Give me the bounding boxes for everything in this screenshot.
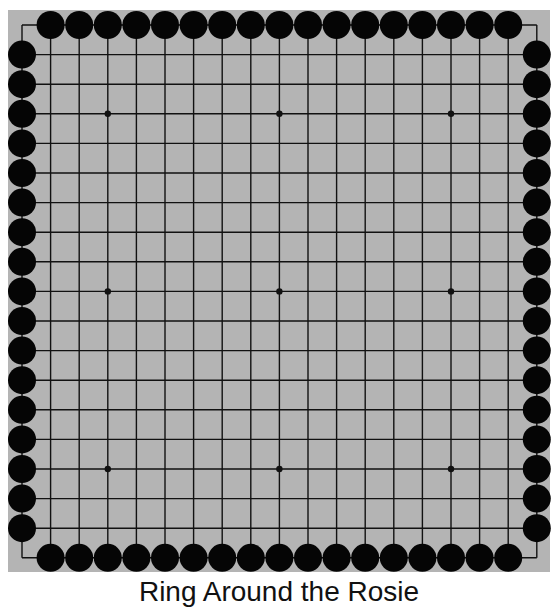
black-stone[interactable] [380,11,408,39]
black-stone[interactable] [151,11,179,39]
black-stone[interactable] [294,544,322,572]
black-stone[interactable] [180,544,208,572]
black-stone[interactable] [8,485,36,513]
black-stone[interactable] [408,544,436,572]
black-stone[interactable] [523,100,551,128]
black-stone[interactable] [523,70,551,98]
black-stone[interactable] [523,425,551,453]
black-stone[interactable] [523,455,551,483]
star-point [448,111,454,117]
black-stone[interactable] [523,307,551,335]
black-stone[interactable] [8,425,36,453]
black-stone[interactable] [523,396,551,424]
black-stone[interactable] [94,544,122,572]
star-point [105,288,111,294]
black-stone[interactable] [8,396,36,424]
black-stone[interactable] [523,41,551,69]
star-point [448,288,454,294]
black-stone[interactable] [8,218,36,246]
black-stone[interactable] [437,544,465,572]
black-stone[interactable] [8,277,36,305]
black-stone[interactable] [8,70,36,98]
black-stone[interactable] [8,159,36,187]
black-stone[interactable] [8,41,36,69]
black-stone[interactable] [523,366,551,394]
black-stone[interactable] [294,11,322,39]
black-stone[interactable] [523,337,551,365]
black-stone[interactable] [208,11,236,39]
black-stone[interactable] [494,11,522,39]
black-stone[interactable] [151,544,179,572]
black-stone[interactable] [323,11,351,39]
black-stone[interactable] [265,544,293,572]
black-stone[interactable] [122,11,150,39]
black-stone[interactable] [523,248,551,276]
black-stone[interactable] [523,514,551,542]
black-stone[interactable] [8,307,36,335]
black-stone[interactable] [8,129,36,157]
black-stone[interactable] [8,248,36,276]
black-stone[interactable] [523,159,551,187]
black-stone[interactable] [265,11,293,39]
black-stone[interactable] [208,544,236,572]
black-stone[interactable] [65,544,93,572]
black-stone[interactable] [523,218,551,246]
black-stone[interactable] [523,277,551,305]
black-stone[interactable] [37,11,65,39]
star-point [448,466,454,472]
star-point [105,466,111,472]
black-stone[interactable] [180,11,208,39]
black-stone[interactable] [8,189,36,217]
black-stone[interactable] [8,366,36,394]
black-stone[interactable] [523,189,551,217]
black-stone[interactable] [523,485,551,513]
black-stone[interactable] [8,455,36,483]
black-stone[interactable] [466,544,494,572]
black-stone[interactable] [8,514,36,542]
diagram-caption: Ring Around the Rosie [0,576,558,608]
black-stone[interactable] [523,129,551,157]
black-stone[interactable] [351,11,379,39]
black-stone[interactable] [8,337,36,365]
star-point [105,111,111,117]
black-stone[interactable] [437,11,465,39]
black-stone[interactable] [122,544,150,572]
black-stone[interactable] [466,11,494,39]
black-stone[interactable] [323,544,351,572]
black-stone[interactable] [380,544,408,572]
black-stone[interactable] [237,11,265,39]
black-stone[interactable] [494,544,522,572]
black-stone[interactable] [8,100,36,128]
star-point [276,288,282,294]
star-point [276,466,282,472]
black-stone[interactable] [351,544,379,572]
black-stone[interactable] [94,11,122,39]
black-stone[interactable] [408,11,436,39]
black-stone[interactable] [237,544,265,572]
black-stone[interactable] [37,544,65,572]
black-stone[interactable] [65,11,93,39]
star-point [276,111,282,117]
